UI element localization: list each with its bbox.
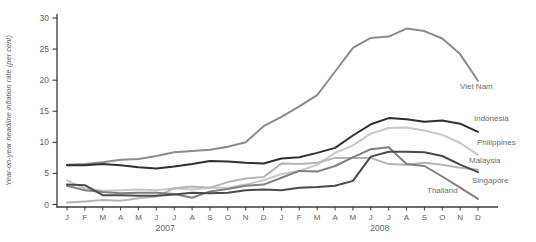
y-tick-label: 20 xyxy=(40,75,50,85)
month-label: O xyxy=(225,213,231,222)
series-label-indonesia: Indonesia xyxy=(474,114,509,123)
month-label: A xyxy=(189,213,195,222)
series-label-philippines: Philippines xyxy=(477,138,516,147)
y-axis-title: Year-on-year headline inflation rate (pe… xyxy=(4,35,13,186)
month-label: J xyxy=(65,213,69,222)
month-label: S xyxy=(422,213,427,222)
month-label: J xyxy=(172,213,176,222)
y-tick-label: 30 xyxy=(40,13,50,23)
year-label-2007: 2007 xyxy=(156,223,175,233)
line-indonesia xyxy=(67,118,478,168)
month-label: J xyxy=(279,213,283,222)
month-label: F xyxy=(82,213,87,222)
month-label: F xyxy=(297,213,302,222)
month-label: M xyxy=(314,213,321,222)
month-label: N xyxy=(457,213,463,222)
line-viet-nam xyxy=(67,29,478,165)
month-label: N xyxy=(243,213,249,222)
month-label: O xyxy=(439,213,445,222)
month-label: J xyxy=(369,213,373,222)
line-thailand xyxy=(67,147,478,199)
y-tick-label: 25 xyxy=(40,44,50,54)
series-label-thailand: Thailand xyxy=(427,186,458,195)
inflation-line-chart: 051015202530JFMAMJJASONDJFMAMJJASOND2007… xyxy=(0,0,536,242)
y-tick-label: 10 xyxy=(40,137,50,147)
series-label-singapore: Singapore xyxy=(472,176,509,185)
month-label: J xyxy=(154,213,158,222)
month-label: D xyxy=(261,213,267,222)
inflation-chart-panel: 051015202530JFMAMJJASONDJFMAMJJASOND2007… xyxy=(0,0,536,242)
series-label-viet-nam: Viet Nam xyxy=(460,82,493,91)
month-label: M xyxy=(135,213,142,222)
y-tick-label: 0 xyxy=(44,200,49,210)
month-label: S xyxy=(207,213,212,222)
month-label: M xyxy=(350,213,357,222)
y-tick-label: 15 xyxy=(40,106,50,116)
year-label-2008: 2008 xyxy=(370,223,389,233)
y-tick-label: 5 xyxy=(44,168,49,178)
month-label: J xyxy=(387,213,391,222)
series-label-malaysia: Malaysia xyxy=(469,156,501,165)
month-label: A xyxy=(332,213,338,222)
month-label: D xyxy=(475,213,481,222)
month-label: A xyxy=(118,213,124,222)
month-label: M xyxy=(99,213,106,222)
month-label: A xyxy=(404,213,410,222)
